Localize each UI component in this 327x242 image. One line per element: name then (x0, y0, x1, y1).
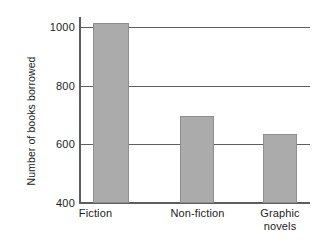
x-label-graphic-novels-line2: novels (244, 220, 316, 233)
x-label-fiction: Fiction (58, 207, 133, 220)
bar-non-fiction (180, 116, 214, 203)
x-label-graphic-novels-line1: Graphic (244, 207, 316, 220)
y-tick-label-800: 800 (5, 81, 75, 92)
y-tick-label-1000: 1000 (5, 22, 75, 33)
x-label-non-fiction: Non-fiction (150, 207, 245, 220)
y-tick-label-600: 600 (5, 139, 75, 150)
bar-graphic-novels (263, 134, 297, 203)
x-label-graphic-novels: Graphic novels (244, 207, 316, 233)
y-axis-tick-labels: 1000 800 600 400 (0, 0, 75, 242)
x-label-non-fiction-line1: Non-fiction (150, 207, 245, 220)
bar-fiction (93, 23, 129, 203)
bar-chart: Number of books borrowed 1000 800 600 40… (0, 0, 327, 242)
x-label-fiction-line1: Fiction (58, 207, 133, 220)
plot-area (80, 18, 310, 203)
